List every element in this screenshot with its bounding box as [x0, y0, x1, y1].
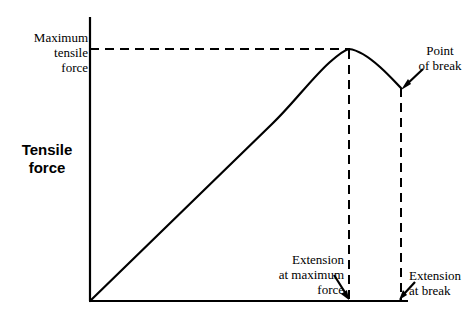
tensile-force-curve	[90, 49, 401, 301]
maximum-tensile-force-label: Maximum tensile force	[8, 30, 88, 75]
y-axis-title: Tensile force	[8, 141, 86, 177]
extension-at-maximum-force-label: Extension at maximum force	[262, 252, 344, 297]
extension-at-break-label: Extension at break	[409, 268, 474, 298]
point-of-break-label: Point of break	[406, 43, 474, 73]
tensile-force-extension-figure: Maximum tensile force Tensile force Poin…	[0, 0, 474, 321]
